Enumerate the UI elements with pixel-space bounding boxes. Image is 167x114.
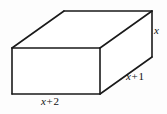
dimension-label-depth: x+1	[126, 71, 144, 82]
dimension-label-height-var: x	[154, 24, 159, 36]
prism-figure: x x+1 x+2	[0, 0, 167, 114]
dimension-label-depth-op: +	[131, 70, 138, 82]
dimension-label-width-num: 2	[54, 95, 60, 107]
dimension-label-height: x	[154, 25, 159, 36]
prism-drawing	[0, 0, 167, 114]
dimension-label-width: x+2	[41, 96, 59, 107]
dimension-label-depth-num: 1	[139, 70, 145, 82]
front-face	[12, 48, 100, 94]
dimension-label-width-op: +	[46, 95, 53, 107]
